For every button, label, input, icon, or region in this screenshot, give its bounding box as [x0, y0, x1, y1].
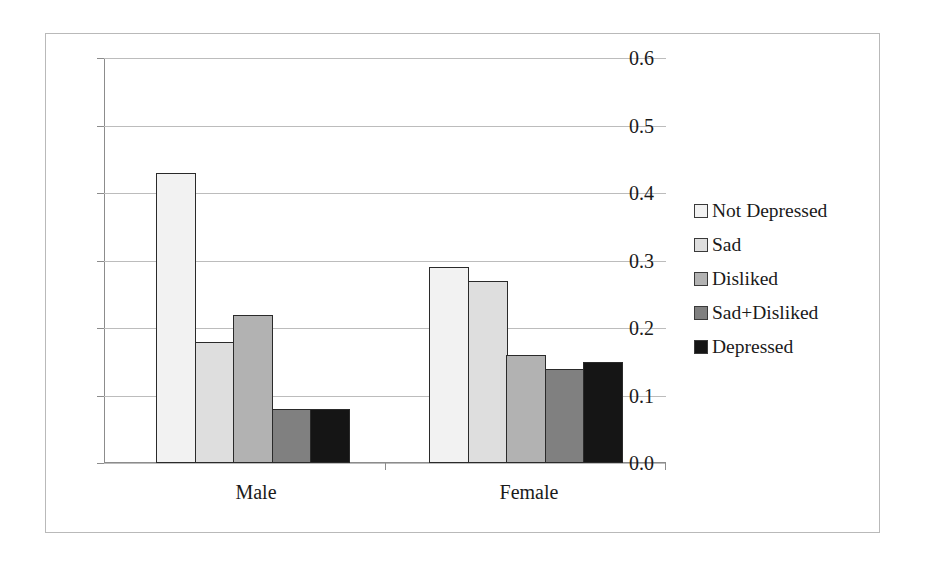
legend-swatch-icon	[694, 272, 708, 286]
y-axis-tick-label: 0.0	[629, 453, 654, 473]
bar[interactable]	[583, 362, 623, 463]
legend-label: Disliked	[712, 269, 778, 289]
bar[interactable]	[506, 355, 546, 463]
legend-item[interactable]: Not Depressed	[694, 194, 874, 228]
bar-group	[429, 58, 629, 463]
legend-item[interactable]: Disliked	[694, 262, 874, 296]
x-axis-label: Female	[429, 481, 629, 503]
y-axis-tick-label: 0.6	[629, 48, 654, 68]
legend-swatch-icon	[694, 340, 708, 354]
y-axis-tick	[97, 58, 104, 59]
y-axis-tick-label: 0.2	[629, 318, 654, 338]
plot-area: 0.60.50.40.30.20.10.0 MaleFemale	[104, 58, 666, 463]
y-axis-tick	[97, 193, 104, 194]
bar[interactable]	[310, 409, 350, 463]
y-axis-tick	[97, 126, 104, 127]
legend-swatch-icon	[694, 306, 708, 320]
bar[interactable]	[545, 369, 585, 464]
legend-item[interactable]: Sad+Disliked	[694, 296, 874, 330]
legend-label: Not Depressed	[712, 201, 827, 221]
legend-label: Sad+Disliked	[712, 303, 818, 323]
bar-group	[156, 58, 356, 463]
y-axis-tick	[97, 463, 104, 464]
legend-item[interactable]: Sad	[694, 228, 874, 262]
y-axis-tick-label: 0.5	[629, 116, 654, 136]
y-axis-tick-label: 0.3	[629, 251, 654, 271]
chart-legend: Not DepressedSadDislikedSad+DislikedDepr…	[694, 194, 874, 364]
y-axis-tick-label: 0.1	[629, 386, 654, 406]
bar[interactable]	[468, 281, 508, 463]
bar[interactable]	[272, 409, 312, 463]
y-axis-tick	[97, 261, 104, 262]
bar[interactable]	[233, 315, 273, 464]
y-axis-tick	[97, 396, 104, 397]
bar[interactable]	[429, 267, 469, 463]
x-axis-tick	[385, 463, 386, 470]
chart-figure: 0.60.50.40.30.20.10.0 MaleFemale Not Dep…	[45, 33, 880, 533]
legend-label: Depressed	[712, 337, 793, 357]
y-axis-tick-label: 0.4	[629, 183, 654, 203]
legend-label: Sad	[712, 235, 741, 255]
bar[interactable]	[195, 342, 235, 464]
x-axis-tick	[665, 463, 666, 470]
legend-swatch-icon	[694, 204, 708, 218]
y-axis-tick	[97, 328, 104, 329]
x-axis-label: Male	[156, 481, 356, 503]
legend-item[interactable]: Depressed	[694, 330, 874, 364]
legend-swatch-icon	[694, 238, 708, 252]
bar[interactable]	[156, 173, 196, 463]
